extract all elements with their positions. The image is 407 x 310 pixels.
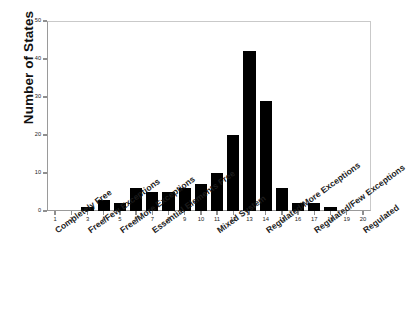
x-tick-mark bbox=[71, 211, 72, 215]
bar bbox=[179, 188, 191, 211]
x-tick-mark bbox=[297, 211, 298, 215]
bar bbox=[308, 203, 320, 211]
y-tick-label: 30 bbox=[35, 93, 41, 99]
x-tick-label: 20 bbox=[354, 216, 372, 222]
bar bbox=[276, 188, 288, 211]
x-tick-mark bbox=[362, 211, 363, 215]
bar bbox=[260, 101, 272, 211]
x-tick-mark bbox=[330, 211, 331, 215]
bar bbox=[227, 135, 239, 211]
x-tick-mark bbox=[346, 211, 347, 215]
bars-layer bbox=[47, 21, 371, 211]
y-tick-label: 0 bbox=[38, 207, 41, 213]
bar bbox=[98, 200, 110, 211]
x-tick-mark bbox=[184, 211, 185, 215]
x-tick-mark bbox=[233, 211, 234, 215]
x-tick-mark bbox=[135, 211, 136, 215]
bar bbox=[114, 203, 126, 211]
x-tick-mark bbox=[168, 211, 169, 215]
bar bbox=[130, 188, 142, 211]
x-axis-ticks: 1234567891011121314151617181920 bbox=[47, 211, 371, 225]
bar bbox=[211, 173, 223, 211]
bar bbox=[146, 192, 158, 211]
x-tick-mark bbox=[54, 211, 55, 215]
x-tick-mark bbox=[103, 211, 104, 215]
x-tick-mark bbox=[249, 211, 250, 215]
x-tick-mark bbox=[200, 211, 201, 215]
bar bbox=[292, 203, 304, 211]
x-tick-mark bbox=[314, 211, 315, 215]
x-tick-mark bbox=[265, 211, 266, 215]
y-tick-label: 50 bbox=[35, 17, 41, 23]
y-tick-label: 40 bbox=[35, 55, 41, 61]
y-tick-label: 20 bbox=[35, 131, 41, 137]
y-axis-title: Number of States bbox=[21, 0, 36, 148]
x-tick-mark bbox=[216, 211, 217, 215]
bar bbox=[243, 51, 255, 211]
y-tick-label: 10 bbox=[35, 169, 41, 175]
x-tick-mark bbox=[152, 211, 153, 215]
bar bbox=[195, 184, 207, 211]
x-tick-mark bbox=[281, 211, 282, 215]
x-tick-mark bbox=[119, 211, 120, 215]
bar bbox=[162, 192, 174, 211]
x-tick-mark bbox=[87, 211, 88, 215]
